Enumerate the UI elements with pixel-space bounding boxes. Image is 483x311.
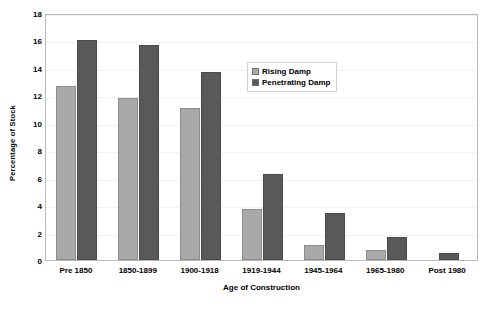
legend-item: Rising Damp bbox=[252, 66, 330, 77]
x-axis-tick-label: 1965-1980 bbox=[366, 266, 404, 275]
bar-groups bbox=[46, 15, 477, 260]
x-axis-tick-label: 1945-1964 bbox=[304, 266, 342, 275]
bar-group bbox=[232, 15, 294, 260]
bar-group bbox=[108, 15, 170, 260]
bar-chart: Percentage of Stock 024681012141618 Pre … bbox=[0, 0, 483, 311]
bar bbox=[139, 45, 159, 260]
y-axis-tick-label: 10 bbox=[22, 119, 42, 128]
y-axis-tick-label: 18 bbox=[22, 10, 42, 19]
bar bbox=[118, 98, 138, 260]
x-axis-tick-label: Pre 1850 bbox=[59, 266, 92, 275]
bar-group bbox=[355, 15, 417, 260]
x-axis-tick-label: Post 1980 bbox=[428, 266, 465, 275]
bar-group bbox=[293, 15, 355, 260]
y-axis-tick-labels: 024681012141618 bbox=[20, 0, 42, 311]
y-axis-title: Percentage of Stock bbox=[4, 12, 20, 274]
legend-swatch-icon bbox=[252, 68, 259, 75]
bar bbox=[263, 174, 283, 260]
bar bbox=[304, 245, 324, 260]
plot-area bbox=[45, 14, 478, 261]
legend: Rising DampPenetrating Damp bbox=[247, 62, 337, 92]
bar bbox=[325, 213, 345, 260]
y-axis-tick-label: 14 bbox=[22, 64, 42, 73]
x-axis-tick-labels: Pre 18501850-18991900-19181919-19441945-… bbox=[45, 266, 478, 280]
bar bbox=[77, 40, 97, 260]
bar bbox=[366, 250, 386, 260]
bar-group bbox=[417, 15, 479, 260]
bar bbox=[242, 209, 262, 260]
bar bbox=[201, 72, 221, 260]
y-axis-tick-label: 16 bbox=[22, 37, 42, 46]
bar bbox=[439, 253, 459, 260]
bar bbox=[180, 108, 200, 260]
y-axis-tick-label: 8 bbox=[22, 147, 42, 156]
legend-item: Penetrating Damp bbox=[252, 77, 330, 88]
legend-label: Rising Damp bbox=[262, 67, 311, 77]
x-axis-tick-label: 1919-1944 bbox=[242, 266, 280, 275]
y-axis-tick-label: 4 bbox=[22, 202, 42, 211]
y-axis-tick-label: 2 bbox=[22, 229, 42, 238]
y-axis-tick-label: 12 bbox=[22, 92, 42, 101]
bar-group bbox=[46, 15, 108, 260]
x-axis-title: Age of Construction bbox=[45, 283, 478, 292]
x-axis-tick-label: 1850-1899 bbox=[119, 266, 157, 275]
y-axis-tick-label: 0 bbox=[22, 257, 42, 266]
bar-group bbox=[170, 15, 232, 260]
x-axis-tick-label: 1900-1918 bbox=[181, 266, 219, 275]
legend-label: Penetrating Damp bbox=[262, 78, 330, 88]
y-axis-tick-label: 6 bbox=[22, 174, 42, 183]
bar bbox=[56, 86, 76, 260]
legend-swatch-icon bbox=[252, 79, 259, 86]
bar bbox=[387, 237, 407, 260]
